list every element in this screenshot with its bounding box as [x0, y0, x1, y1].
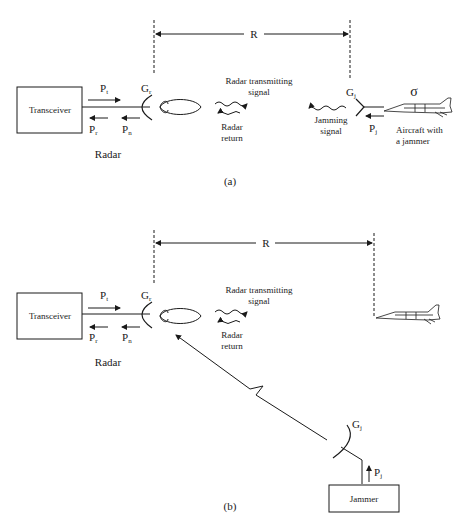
jammer-dish-icon	[333, 425, 350, 458]
jamming-wave-arrow	[309, 106, 346, 110]
jammer-antenna-icon	[356, 99, 364, 116]
jamming-path-arrow	[176, 335, 327, 440]
return-wave-arrow	[218, 321, 240, 324]
transceiver-label: Transceiver	[29, 105, 71, 115]
pj-label: Pj	[369, 122, 377, 136]
gr-label: Gr	[141, 289, 152, 303]
return-signal-label: Radarreturn	[221, 330, 243, 351]
tx-wave-arrow	[215, 102, 247, 106]
tx-wave-arrow	[215, 310, 247, 314]
pr-label: Pr	[89, 123, 98, 137]
tx-signal-label: Radar transmittingsignal	[225, 285, 293, 306]
gr-label: Gr	[141, 82, 152, 96]
pj-label: Pj	[374, 466, 382, 480]
gj-label: Gj	[352, 418, 362, 432]
aircraft-icon	[384, 98, 452, 117]
radar-label: Radar	[95, 356, 122, 368]
radar-label: Radar	[95, 148, 122, 160]
return-wave-arrow	[218, 112, 240, 115]
pt-label: Pt	[100, 289, 108, 303]
transceiver-label: Transceiver	[29, 311, 71, 321]
antenna-beam-icon	[160, 100, 201, 115]
pt-label: Pt	[100, 82, 108, 96]
gj-label: Gj	[346, 86, 356, 100]
antenna-beam-icon	[160, 309, 201, 324]
pn-label: Pn	[122, 123, 132, 137]
radar-dish-icon	[142, 302, 152, 328]
diagram-a: R Transceiver Pt Pr Pn Gr Radar Radar tr…	[17, 20, 452, 188]
caption-b: (b)	[224, 500, 237, 513]
return-signal-label: Radarreturn	[221, 122, 243, 143]
rcs-sigma-label: σ	[410, 84, 418, 99]
aircraft-icon	[376, 305, 440, 324]
range-label: R	[250, 28, 258, 40]
diagram-b: R Transceiver Pt Pr Pn Gr Radar Radar tr…	[17, 230, 440, 513]
caption-a: (a)	[224, 175, 237, 188]
tx-signal-label: Radar transmittingsignal	[225, 76, 293, 97]
pn-label: Pn	[122, 331, 132, 345]
jammer-label: Jammer	[350, 494, 379, 504]
jamming-signal-label: Jammingsignal	[315, 115, 348, 136]
pr-label: Pr	[89, 331, 98, 345]
aircraft-label: Aircraft witha jammer	[396, 125, 443, 146]
jammer-feed-line	[341, 447, 362, 484]
range-label: R	[262, 237, 270, 249]
